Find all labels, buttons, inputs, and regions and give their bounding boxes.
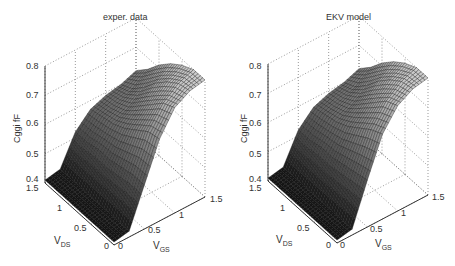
z-tick: 0.5 <box>249 149 262 159</box>
z-tick: 0.7 <box>249 90 262 100</box>
z-axis-label: Cggi fF <box>12 114 22 143</box>
z-tick: 0.8 <box>26 61 39 71</box>
plot-exper-data: exper. data Cggi fF 0.8 0.7 0.6 0.5 0.4 … <box>0 0 228 266</box>
z-tick: 0.5 <box>26 149 39 159</box>
plot-title: EKV model <box>326 12 371 22</box>
vds-tick: 1.5 <box>249 183 262 193</box>
vds-axis-label: VDS <box>276 234 292 247</box>
vgs-tick: 1 <box>401 208 406 218</box>
vgs-tick: 0.5 <box>370 224 383 234</box>
vds-tick: 1 <box>280 203 285 213</box>
vgs-tick: 1 <box>179 210 184 220</box>
vds-tick: 0.5 <box>297 223 310 233</box>
vgs-axis-label: VGS <box>375 238 392 251</box>
z-tick: 0.8 <box>249 61 262 71</box>
plot-title: exper. data <box>103 12 148 22</box>
z-axis-label: Cggi fF <box>239 114 249 143</box>
vds-axis-label: VDS <box>54 235 70 248</box>
vds-tick: 1 <box>57 203 62 213</box>
surface-plot-exper-data <box>0 0 228 266</box>
vgs-tick: 0 <box>118 241 123 251</box>
vds-tick: 1.5 <box>26 183 39 193</box>
vgs-axis-label: VGS <box>153 240 170 253</box>
vgs-tick: 0 <box>340 240 345 250</box>
vds-tick: 0 <box>104 241 109 251</box>
z-tick: 0.6 <box>249 118 262 128</box>
vgs-tick: 1.5 <box>432 192 445 202</box>
vds-tick: 0.5 <box>74 223 87 233</box>
z-tick: 0.7 <box>26 90 39 100</box>
plot-ekv-model: EKV model Cggi fF 0.8 0.7 0.6 0.5 0.4 1.… <box>227 0 455 266</box>
surface-plot-ekv-model <box>227 0 455 266</box>
vds-tick: 0 <box>326 240 331 250</box>
vgs-tick: 0.5 <box>148 225 161 235</box>
z-tick: 0.6 <box>26 118 39 128</box>
vgs-tick: 1.5 <box>210 194 223 204</box>
